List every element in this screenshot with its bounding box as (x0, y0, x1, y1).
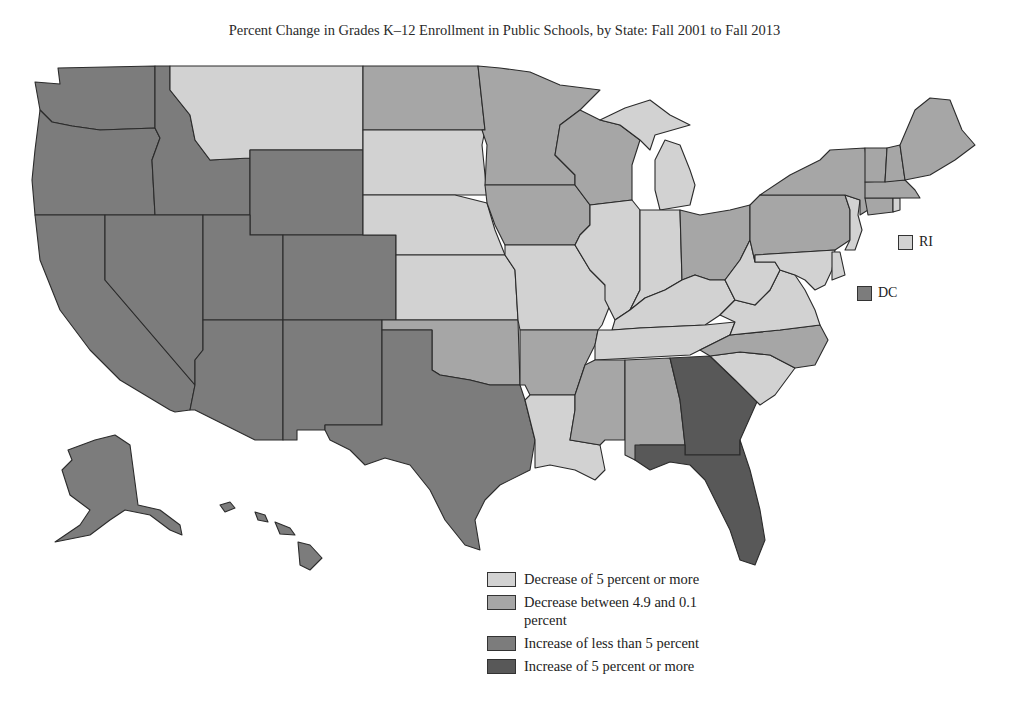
state-DE (832, 252, 845, 280)
inset-dc-label: DC (878, 285, 897, 301)
inset-ri-swatch (898, 235, 913, 250)
legend: Decrease of 5 percent or more Decrease b… (487, 570, 699, 680)
legend-item-dec5: Decrease of 5 percent or more (487, 570, 699, 588)
state-NM (283, 320, 382, 440)
inset-ri-label: RI (919, 234, 933, 250)
inset-dc-swatch (857, 286, 872, 301)
inset-dc: DC (857, 285, 897, 301)
state-CO (283, 235, 396, 320)
legend-swatch (487, 636, 516, 651)
state-ME (900, 98, 975, 180)
state-WY (250, 150, 363, 235)
state-FL (635, 440, 765, 565)
inset-ri: RI (898, 234, 933, 250)
state-HI (220, 502, 322, 570)
legend-swatch (487, 595, 516, 610)
state-IA (485, 185, 590, 245)
legend-item-dec0: Decrease between 4.9 and 0.1 percent (487, 593, 699, 629)
state-AZ (190, 320, 283, 440)
state-KS (396, 255, 518, 320)
state-CT (865, 198, 893, 215)
state-MT (170, 66, 363, 160)
state-RI (893, 198, 900, 212)
state-VT (865, 148, 887, 182)
state-SD (363, 130, 487, 195)
legend-item-inc0: Increase of less than 5 percent (487, 634, 699, 652)
state-MA (865, 180, 920, 198)
state-AK (55, 435, 182, 542)
state-WA (35, 66, 155, 130)
legend-swatch (487, 572, 516, 587)
legend-label: Decrease of 5 percent or more (524, 570, 699, 588)
state-ND (363, 66, 485, 130)
legend-item-inc5: Increase of 5 percent or more (487, 657, 699, 675)
legend-swatch (487, 659, 516, 674)
legend-label: Increase of less than 5 percent (524, 634, 699, 652)
legend-label: Decrease between 4.9 and 0.1 percent (524, 593, 699, 629)
legend-label: Increase of 5 percent or more (524, 657, 694, 675)
